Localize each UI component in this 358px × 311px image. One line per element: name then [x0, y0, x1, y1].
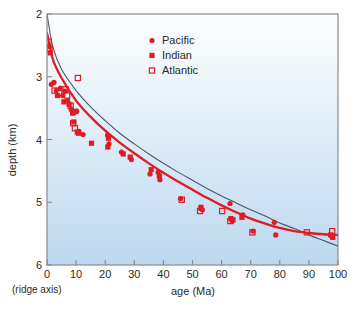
x-tick-label: 80: [274, 268, 286, 280]
data-point-indian: [76, 131, 81, 136]
y-tick-label: 2: [36, 8, 42, 20]
x-axis-label: age (Ma): [171, 285, 215, 297]
data-point-indian: [330, 235, 335, 240]
data-point-indian: [149, 167, 154, 172]
legend-marker-indian: [149, 53, 154, 58]
y-axis-label: depth (km): [6, 124, 18, 177]
x-tick-label: 0: [44, 268, 50, 280]
data-point-indian: [105, 144, 110, 149]
legend-label-atlantic: Atlantic: [162, 64, 199, 76]
data-point-indian: [106, 136, 111, 141]
depth-vs-age-chart: 0102030405060708090100 23456 age (Ma) de…: [0, 0, 358, 311]
data-point-indian: [73, 109, 78, 114]
data-point-pacific: [272, 220, 277, 225]
x-tick-label: 40: [157, 268, 169, 280]
data-point-indian: [128, 154, 133, 159]
data-point-indian: [239, 215, 244, 220]
x-tick-label: 90: [303, 268, 315, 280]
x-tick-label: 30: [128, 268, 140, 280]
data-point-pacific: [227, 201, 232, 206]
x-tick-label: 10: [70, 268, 82, 280]
y-tick-label: 4: [36, 134, 42, 146]
x-tick-label: 20: [99, 268, 111, 280]
x-tick-label: 60: [215, 268, 227, 280]
y-tick-label: 6: [36, 259, 42, 271]
x-tick-label: 50: [186, 268, 198, 280]
data-point-indian: [61, 99, 66, 104]
legend-label-pacific: Pacific: [162, 34, 195, 46]
x-tick-label: 100: [329, 268, 347, 280]
data-point-indian: [121, 151, 126, 156]
x-tick-label: 70: [245, 268, 257, 280]
figure-container: 0102030405060708090100 23456 age (Ma) de…: [0, 0, 358, 311]
legend-marker-pacific: [149, 38, 154, 43]
ridge-axis-annotation: (ridge axis): [12, 284, 61, 295]
data-point-indian: [157, 173, 162, 178]
data-point-pacific: [51, 80, 56, 85]
y-tick-label: 3: [36, 71, 42, 83]
plot-area-background: [47, 14, 338, 265]
data-point-pacific: [80, 132, 85, 137]
y-tick-label: 5: [36, 196, 42, 208]
legend-label-indian: Indian: [162, 49, 192, 61]
data-point-pacific: [273, 232, 278, 237]
data-point-indian: [89, 141, 94, 146]
